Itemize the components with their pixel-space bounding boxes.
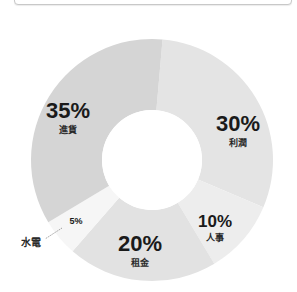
slice-pct-jinhuo: 35% <box>46 98 90 123</box>
donut-chart: 35% 進貨 30% 利潤 10% 人事 20% 租金 5% 水電 <box>0 0 297 292</box>
donut-hole <box>102 110 202 210</box>
slice-pct-renshi: 10% <box>198 212 232 231</box>
slice-label-zujin: 租金 <box>131 257 150 268</box>
slice-pct-shuidian: 5% <box>69 216 82 226</box>
slice-pct-lirun: 30% <box>216 111 260 136</box>
slice-pct-zujin: 20% <box>118 231 162 256</box>
slice-label-jinhuo: 進貨 <box>59 124 77 135</box>
slice-label-lirun: 利潤 <box>228 137 247 148</box>
slice-label-renshi: 人事 <box>205 232 224 243</box>
slice-label-shuidian: 水電 <box>20 236 41 248</box>
